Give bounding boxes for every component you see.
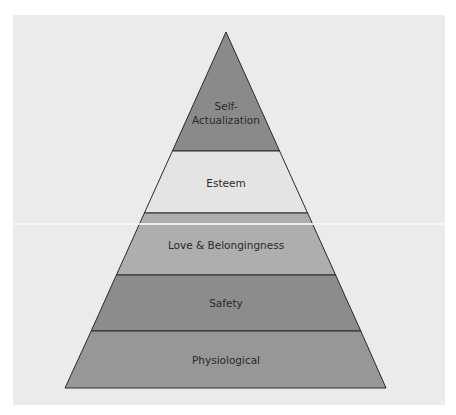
maslow-pyramid: Self- Actualization Esteem Love & Belong… [0, 0, 456, 415]
pyramid-level-safety: Safety [91, 275, 361, 331]
level-label: Physiological [192, 354, 260, 366]
level-shape [172, 32, 279, 151]
level-label: Safety [209, 297, 243, 309]
scan-artifact-line [13, 223, 445, 225]
level-label-line-1: Self- [215, 100, 238, 112]
level-label-line-2: Actualization [192, 114, 260, 126]
level-label: Esteem [206, 177, 245, 189]
pyramid-level-esteem: Esteem [144, 151, 307, 213]
pyramid-level-physiological: Physiological [65, 331, 386, 388]
level-label: Love & Belongingness [168, 239, 284, 251]
pyramid-level-self-actualization: Self- Actualization [172, 32, 279, 151]
